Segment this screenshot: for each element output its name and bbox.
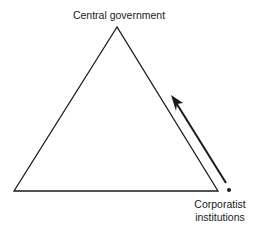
corporatist-label-line2: institutions [188,211,252,224]
arrowhead-icon [171,95,183,111]
triangle-shape [14,27,218,191]
corporatist-position-dot [227,188,231,192]
movement-arrow [175,101,226,183]
diagram-canvas [0,0,255,230]
corporatist-institutions-label: Corporatist institutions [188,198,252,224]
corporatist-label-line1: Corporatist [188,198,252,211]
central-government-label: Central government [60,9,178,22]
